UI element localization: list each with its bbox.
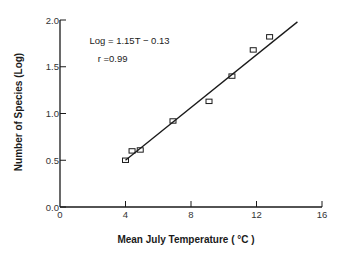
data-point-marker (206, 99, 212, 103)
y-tick-label: 0.5 (46, 155, 59, 166)
equation-annotation: Log = 1.15T − 0.13 (89, 35, 169, 46)
y-axis-label: Number of Species (Log) (13, 53, 24, 171)
annotations: Log = 1.15T − 0.13r =0.99 (89, 35, 169, 64)
x-axis-label: Mean July Temperature ( °C ) (117, 234, 254, 245)
x-tick-label: 0 (57, 209, 62, 220)
x-tick-label: 8 (188, 209, 193, 220)
data-point-marker (267, 35, 273, 39)
data-point-marker (129, 149, 135, 153)
y-axis: 0.00.51.01.52.0 (46, 15, 66, 213)
y-tick-label: 1.5 (46, 61, 59, 72)
y-tick-label: 2.0 (46, 15, 59, 26)
x-tick-label: 12 (251, 209, 262, 220)
x-tick-label: 4 (123, 209, 128, 220)
scatter-chart: 0.00.51.01.52.0 0481216 Log = 1.15T − 0.… (0, 0, 339, 255)
equation-annotation: r =0.99 (98, 53, 128, 64)
y-tick-label: 1.0 (46, 108, 59, 119)
data-point-marker (250, 48, 256, 52)
x-axis: 0481216 (57, 201, 327, 220)
x-tick-label: 16 (317, 209, 328, 220)
